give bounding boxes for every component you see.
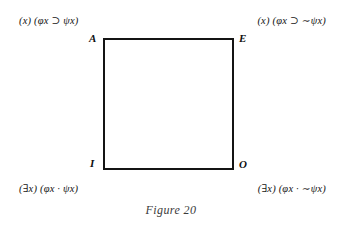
vertex-label-o: O [239,159,247,170]
formula-universal-affirmative: (x) (φx ⊃ ψx) [19,14,79,26]
square-of-opposition-outline [103,38,234,170]
vertex-label-e: E [239,33,246,44]
formula-universal-negative: (x) (φx ⊃ ∼ψx) [257,14,326,26]
vertex-label-a: A [89,33,96,44]
formula-particular-negative: (∃x) (φx · ∼ψx) [258,182,326,194]
formula-particular-affirmative: (∃x) (φx · ψx) [19,182,78,194]
figure-container: (x) (φx ⊃ ψx) (x) (φx ⊃ ∼ψx) (∃x) (φx · … [0,0,342,228]
vertex-label-i: I [90,158,94,169]
figure-caption: Figure 20 [0,203,342,218]
